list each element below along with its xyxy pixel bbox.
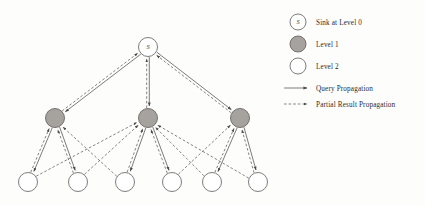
query-edge-L1a-L2b — [60, 127, 76, 170]
legend-item-level1: Level 1 — [290, 36, 339, 52]
query-edge-S-L1c — [157, 52, 232, 110]
network-tree-diagram: S SSink at Level 0Level 1Level 2Query Pr… — [0, 0, 425, 205]
legend-label: Partial Result Propagation — [316, 101, 396, 109]
node-L2a-level2[interactable] — [19, 173, 38, 192]
node-L2e-level2[interactable] — [203, 173, 222, 192]
node-L1b-level1[interactable] — [139, 109, 158, 128]
node-circle — [231, 109, 250, 128]
legend-item-query: Query Propagation — [284, 85, 373, 93]
query-edge-L1a-L2a — [34, 128, 52, 172]
result-edge-L2b-L1b — [85, 125, 139, 174]
node-L2c-level2[interactable] — [116, 173, 135, 192]
legend-label: Level 1 — [316, 41, 339, 49]
result-edge-L2e-L1c — [215, 128, 234, 172]
node-circle — [116, 173, 135, 192]
legend-item-level2: Level 2 — [290, 58, 339, 74]
query-edge-L1b-L2d — [153, 127, 169, 170]
query-edge-L1c-L2f — [244, 127, 256, 170]
result-edge-L2c-L1b — [127, 129, 143, 172]
result-edge-L2e-L1b — [156, 127, 204, 175]
result-edge-L2b-L1a — [58, 130, 74, 173]
diagram-canvas: S SSink at Level 0Level 1Level 2Query Pr… — [0, 0, 425, 205]
node-L1c-level1[interactable] — [231, 109, 250, 128]
result-edge-L2c-L1a — [63, 127, 117, 176]
query-edge-S-L1a — [65, 54, 141, 112]
legend-circle-open-icon — [290, 58, 306, 74]
node-L2b-level2[interactable] — [69, 173, 88, 192]
legend-label: Query Propagation — [316, 85, 373, 93]
query-edge-L1c-L2e — [218, 128, 237, 172]
node-L2f-level2[interactable] — [249, 173, 268, 192]
result-edge-L2a-L1a — [31, 129, 49, 173]
legend: SSink at Level 0Level 1Level 2Query Prop… — [284, 14, 396, 109]
nodes-layer: S — [19, 38, 268, 192]
node-L2d-level2[interactable] — [163, 173, 182, 192]
node-circle — [46, 109, 65, 128]
node-L1a-level1[interactable] — [46, 109, 65, 128]
legend-circle-filled-icon — [290, 36, 306, 52]
node-circle — [19, 173, 38, 192]
result-edge-L1a-S — [62, 53, 138, 111]
legend-label: Sink at Level 0 — [316, 19, 362, 27]
result-edge-L2d-L1c — [178, 125, 230, 174]
legend-label: Level 2 — [316, 63, 339, 71]
result-edge-L1c-S — [157, 55, 232, 113]
legend-item-result: Partial Result Propagation — [284, 101, 396, 109]
node-circle — [139, 109, 158, 128]
result-edge-L2f-L1c — [242, 130, 254, 173]
node-circle — [249, 173, 268, 192]
query-edge-L1b-L2c — [130, 128, 146, 171]
node-circle — [203, 173, 222, 192]
node-circle — [163, 173, 182, 192]
node-S-sink[interactable]: S — [139, 38, 158, 57]
legend-item-sink: SSink at Level 0 — [290, 14, 362, 30]
node-circle — [69, 173, 88, 192]
